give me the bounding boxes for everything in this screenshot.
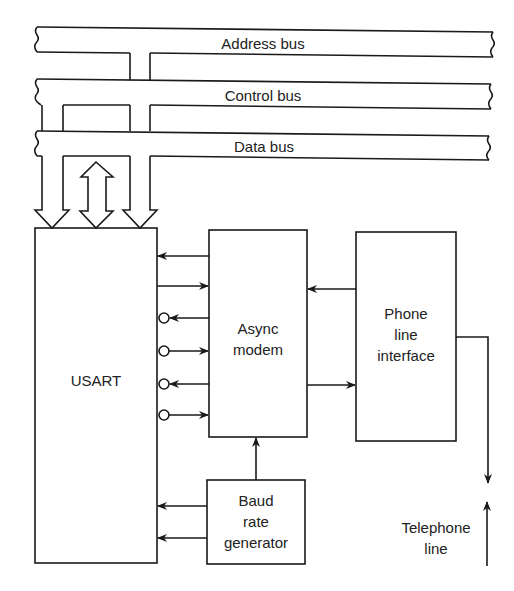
address-bus-drop (130, 53, 150, 80)
baud-rate-generator-label-line1: Baud (238, 492, 273, 509)
telephone-line-label-line2: line (424, 540, 447, 557)
control-bus-label: Control bus (225, 87, 302, 104)
modem-phone-signals (307, 289, 356, 385)
usart-label: USART (71, 372, 122, 389)
baud-rate-generator-label-line2: rate (243, 513, 269, 530)
phone-line-interface-label-line2: line (394, 326, 417, 343)
control-bus-arrow (35, 156, 69, 228)
async-modem-label-line1: Async (238, 320, 279, 337)
async-modem-label-line2: modem (233, 341, 283, 358)
phone-line-interface-label-line3: interface (377, 347, 435, 364)
usart-block (35, 228, 157, 563)
data-bus-bidirectional-arrow (80, 162, 113, 228)
control-bus-drops (42, 105, 150, 131)
address-bus-label: Address bus (221, 35, 304, 52)
usart-modem-signals (157, 256, 209, 420)
baud-rate-generator-label-line3: generator (224, 534, 288, 551)
telephone-line-label-line1: Telephone (401, 519, 470, 536)
address-bus-arrow (123, 156, 157, 228)
phone-line-interface-label-line1: Phone (384, 305, 427, 322)
usart-modem-block-diagram: Address bus Control bus Data bus USART A… (0, 0, 514, 591)
data-bus-label: Data bus (234, 138, 294, 155)
baud-to-usart-signals (158, 506, 207, 538)
